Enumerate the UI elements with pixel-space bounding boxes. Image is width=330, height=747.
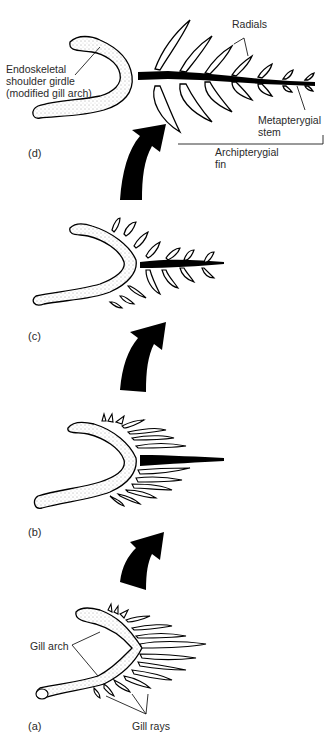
- label-archipterygial-fin: Archipterygial fin: [215, 146, 279, 170]
- stage-label-c: (c): [28, 330, 41, 342]
- label-endoskeletal-shoulder-girdle: Endoskeletal shoulder girdle (modified g…: [6, 63, 92, 99]
- stage-c-stem: [140, 260, 224, 268]
- stage-a-gill-arch: [36, 608, 142, 699]
- stage-label-d: (d): [28, 147, 41, 159]
- label-gill-arch: Gill arch: [30, 640, 69, 652]
- label-metapterygial-stem: Metapterygial stem: [258, 114, 321, 138]
- stage-b-stem: [140, 455, 224, 466]
- arrow-c-to-d: [120, 124, 166, 200]
- label-radials: Radials: [232, 18, 267, 30]
- stage-label-b: (b): [28, 526, 41, 538]
- arrow-b-to-c: [120, 322, 166, 392]
- stage-label-a: (a): [28, 720, 41, 732]
- label-gill-rays: Gill rays: [132, 720, 170, 732]
- arrow-a-to-b: [120, 532, 164, 590]
- stage-c-girdle: [33, 224, 136, 305]
- evolution-diagram: [0, 0, 330, 747]
